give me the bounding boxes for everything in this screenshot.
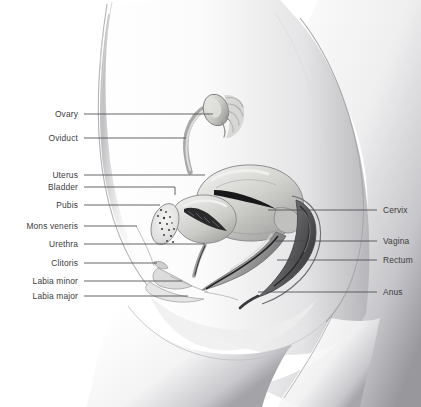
label-urethra: Urethra [49,239,78,249]
label-rectum: Rectum [383,255,413,265]
label-cervix: Cervix [383,205,408,215]
anatomy-figure: OvaryOviductUterusBladderPubisMons vener… [0,0,421,407]
label-labia-major: Labia major [33,291,78,301]
label-ovary: Ovary [55,109,78,119]
label-uterus: Uterus [52,170,78,180]
label-bladder: Bladder [48,182,78,192]
label-labia-minor: Labia minor [33,276,78,286]
label-vagina: Vagina [383,236,409,246]
label-clitoris: Clitoris [51,258,78,268]
label-anus: Anus [383,287,403,297]
label-oviduct: Oviduct [49,133,78,143]
label-pubis: Pubis [56,200,78,210]
label-mons-veneris: Mons veneris [26,221,78,231]
